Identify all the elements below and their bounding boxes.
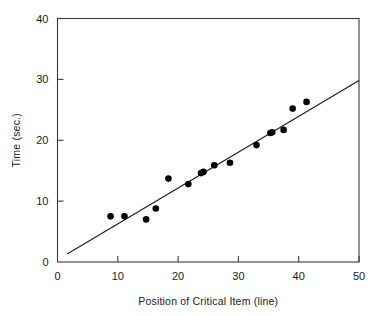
data-point [121, 213, 128, 220]
scatter-plot-figure: 01020304050010203040Position of Critical… [0, 0, 376, 316]
x-tick-label: 50 [353, 270, 365, 282]
plot-frame [58, 19, 360, 263]
data-point [289, 105, 296, 112]
data-point [185, 181, 192, 188]
x-tick-label: 30 [232, 270, 244, 282]
x-tick-label: 40 [293, 270, 305, 282]
x-axis-title: Position of Critical Item (line) [138, 295, 278, 307]
y-tick-label: 20 [36, 134, 48, 146]
data-point [303, 99, 310, 106]
y-axis-title: Time (sec.) [10, 113, 22, 167]
y-tick-label: 30 [36, 73, 48, 85]
data-point [143, 216, 150, 223]
data-point [107, 213, 114, 220]
y-tick-label: 10 [36, 195, 48, 207]
y-tick-label: 40 [36, 13, 48, 25]
data-point [253, 142, 260, 149]
data-point [200, 169, 207, 176]
data-point [211, 162, 218, 169]
y-tick-label: 0 [42, 256, 48, 268]
data-point [152, 205, 159, 212]
data-point [165, 175, 172, 182]
data-point [227, 159, 234, 166]
data-point [269, 129, 276, 136]
x-tick-label: 0 [54, 270, 60, 282]
x-tick-label: 20 [172, 270, 184, 282]
data-point [280, 127, 287, 134]
chart-canvas: 01020304050010203040Position of Critical… [0, 0, 376, 316]
x-tick-label: 10 [112, 270, 124, 282]
